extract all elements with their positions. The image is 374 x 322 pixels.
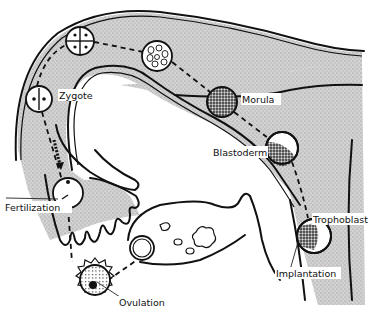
svg-text:Trophoblast: Trophoblast [312, 214, 368, 225]
fertilization-diagram: Zygote Morula Blastoderm Fertilization T… [0, 0, 374, 322]
svg-text:Ovulation: Ovulation [119, 297, 165, 308]
svg-text:Zygote: Zygote [59, 90, 93, 101]
label-implantation: Implantation [275, 267, 341, 279]
stage-zygote [26, 86, 52, 112]
label-fertilization: Fertilization [4, 201, 72, 213]
svg-text:Fertilization: Fertilization [5, 202, 60, 213]
svg-text:Morula: Morula [242, 94, 274, 105]
label-zygote: Zygote [58, 89, 96, 101]
ovary [128, 194, 280, 280]
label-ovulation: Ovulation [118, 296, 166, 308]
label-blastoderm: Blastoderm [212, 146, 268, 158]
stage-multi-cell [142, 41, 172, 71]
svg-text:Blastoderm: Blastoderm [213, 147, 267, 158]
label-morula: Morula [241, 93, 281, 105]
svg-text:Implantation: Implantation [276, 268, 336, 279]
stage-morula [207, 87, 237, 117]
stage-four-cell [66, 27, 94, 55]
stage-blastoderm [266, 132, 298, 166]
label-trophoblast: Trophoblast [312, 213, 372, 225]
